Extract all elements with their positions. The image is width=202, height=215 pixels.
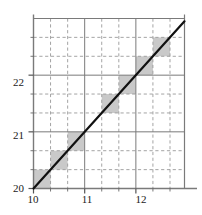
y-tick-label-20: 20 xyxy=(4,183,24,194)
y-tick-label-21: 21 xyxy=(4,130,24,141)
plot-area xyxy=(0,0,202,215)
identity-line-path xyxy=(34,21,185,188)
x-tick-label-10: 10 xyxy=(22,194,44,205)
x-tick-label-11: 11 xyxy=(76,194,98,205)
data-line xyxy=(34,21,185,188)
x-tick-label-12: 12 xyxy=(130,194,152,205)
y-tick-label-22: 22 xyxy=(4,77,24,88)
chart-container: 22 21 20 10 11 12 xyxy=(0,0,202,215)
